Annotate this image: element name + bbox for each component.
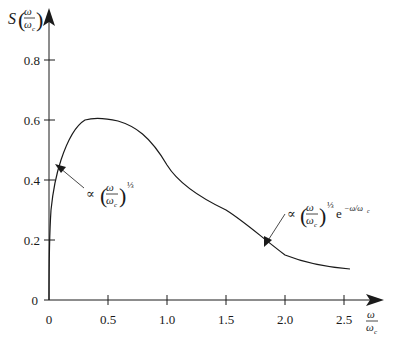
y-axis-label: S ( ω ω c )	[8, 5, 43, 33]
y-tick-label: 0.8	[24, 53, 40, 68]
x-tick-label: 0.5	[100, 312, 116, 327]
annotation-right: ∝ ( ω ω c ) ⅓ e −ω/ω c	[287, 200, 370, 229]
svg-text:⅓: ⅓	[127, 180, 134, 190]
x-tick-label: 0	[46, 312, 53, 327]
x-tick-labels: 0 0.5 1.0 1.5 2.0 2.5	[46, 312, 352, 327]
x-tick-label: 2.0	[277, 312, 293, 327]
chart: 0.8 0.6 0.4 0.2 0 0 0.5 1.0 1.5 2.0 2.5 …	[0, 0, 394, 347]
svg-text:): )	[319, 203, 326, 228]
x-tick-label: 1.5	[218, 312, 234, 327]
annotation-arrow-left	[55, 164, 84, 188]
svg-text:c: c	[367, 208, 370, 214]
svg-text:ω: ω	[106, 181, 114, 193]
x-tick-label: 1.0	[159, 312, 175, 327]
svg-text:ω: ω	[366, 321, 374, 333]
svg-text:⅓: ⅓	[327, 200, 334, 210]
svg-text:c: c	[374, 328, 378, 336]
svg-text:ω: ω	[24, 5, 32, 17]
svg-text:ω: ω	[306, 214, 314, 226]
y-tick-label: 0.6	[24, 113, 41, 128]
svg-text:ω: ω	[306, 201, 314, 213]
svg-text:∝: ∝	[86, 186, 95, 201]
svg-text:): )	[36, 7, 43, 32]
svg-text:ω: ω	[106, 194, 114, 206]
svg-text:∝: ∝	[287, 206, 296, 221]
svg-text:ω: ω	[367, 308, 375, 320]
svg-text:−ω/ω: −ω/ω	[344, 204, 363, 213]
svg-text:ω: ω	[24, 18, 32, 30]
svg-text:c: c	[114, 201, 118, 209]
y-tick-label: 0	[32, 293, 39, 308]
svg-text:e: e	[336, 206, 342, 221]
svg-text:): )	[119, 183, 126, 208]
y-tick-labels: 0.8 0.6 0.4 0.2 0	[24, 53, 41, 308]
y-tick-label: 0.2	[24, 233, 40, 248]
y-tick-label: 0.4	[24, 173, 41, 188]
annotation-left: ∝ ( ω ω c ) ⅓	[86, 180, 134, 209]
arrowhead-icon	[264, 236, 272, 247]
annotation-arrow-right	[264, 214, 285, 247]
x-axis-label: ω ω c	[366, 308, 378, 336]
svg-text:S: S	[8, 10, 16, 27]
svg-text:c: c	[314, 221, 318, 229]
x-tick-label: 2.5	[336, 312, 352, 327]
